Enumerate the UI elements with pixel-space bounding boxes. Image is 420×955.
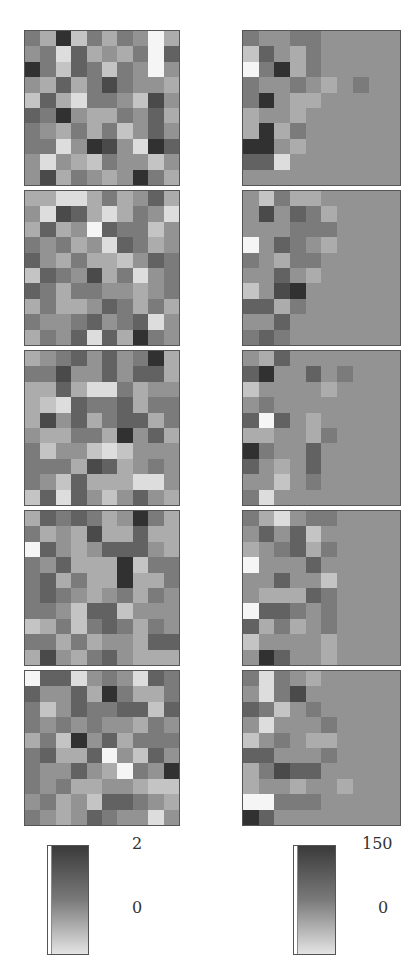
heatmap-cell — [133, 511, 148, 526]
heatmap-cell — [148, 330, 163, 345]
heatmap-cell — [71, 139, 86, 154]
heatmap-cell — [321, 763, 337, 778]
heatmap-cell — [56, 526, 71, 541]
heatmap-cell — [133, 46, 148, 61]
heatmap-cell — [353, 490, 369, 505]
heatmap-cell — [369, 634, 385, 649]
heatmap-cell — [274, 139, 290, 154]
heatmap-cell — [25, 671, 40, 686]
heatmap-cell — [321, 314, 337, 329]
heatmap-cell — [148, 542, 163, 557]
heatmap-cell — [56, 283, 71, 298]
heatmap-cell — [290, 686, 306, 701]
heatmap-cell — [274, 154, 290, 169]
heatmap-cell — [56, 299, 71, 314]
heatmap-cell — [259, 588, 275, 603]
heatmap-cell — [133, 474, 148, 489]
heatmap-cell — [117, 330, 132, 345]
heatmap-cell — [290, 299, 306, 314]
heatmap-cell — [25, 733, 40, 748]
heatmap-cell — [102, 650, 117, 665]
heatmap-cell — [353, 330, 369, 345]
heatmap-cell — [274, 283, 290, 298]
heatmap-cell — [384, 526, 400, 541]
heatmap-cell — [25, 268, 40, 283]
heatmap-cell — [133, 686, 148, 701]
heatmap-cell — [148, 366, 163, 381]
heatmap-cell — [117, 810, 132, 825]
heatmap-cell — [87, 748, 102, 763]
heatmap-cell — [87, 810, 102, 825]
heatmap-cell — [274, 542, 290, 557]
heatmap-cell — [384, 108, 400, 123]
heatmap-cell — [40, 619, 55, 634]
heatmap-cell — [321, 511, 337, 526]
heatmap-cell — [243, 170, 259, 185]
heatmap-cell — [25, 573, 40, 588]
heatmap-cell — [369, 31, 385, 46]
heatmap-cell — [369, 237, 385, 252]
heatmap-cell — [290, 557, 306, 572]
heatmap-cell — [243, 779, 259, 794]
heatmap-cell — [148, 170, 163, 185]
heatmap-cell — [274, 397, 290, 412]
heatmap-cell — [369, 299, 385, 314]
heatmap-cell — [353, 222, 369, 237]
heatmap-cell — [133, 588, 148, 603]
heatmap-cell — [243, 588, 259, 603]
heatmap-cell — [353, 810, 369, 825]
heatmap-cell — [259, 794, 275, 809]
heatmap-cell — [56, 237, 71, 252]
heatmap-cell — [321, 222, 337, 237]
heatmap-cell — [369, 779, 385, 794]
heatmap-cell — [25, 170, 40, 185]
heatmap-cell — [117, 763, 132, 778]
heatmap-cell — [369, 428, 385, 443]
heatmap-cell — [384, 283, 400, 298]
colorbar-edge — [48, 846, 52, 954]
heatmap-cell — [321, 717, 337, 732]
heatmap-cell — [71, 268, 86, 283]
heatmap-cell — [337, 108, 353, 123]
heatmap-cell — [164, 650, 179, 665]
heatmap-cell — [148, 123, 163, 138]
heatmap-cell — [369, 794, 385, 809]
heatmap-cell — [102, 557, 117, 572]
heatmap-cell — [40, 46, 55, 61]
heatmap-cell — [40, 428, 55, 443]
heatmap-cell — [243, 108, 259, 123]
heatmap-cell — [87, 573, 102, 588]
heatmap-cell — [25, 154, 40, 169]
heatmap-cell — [321, 93, 337, 108]
heatmap-cell — [164, 603, 179, 618]
heatmap-cell — [40, 557, 55, 572]
heatmap-cell — [290, 222, 306, 237]
heatmap-cell — [56, 366, 71, 381]
heatmap-cell — [148, 46, 163, 61]
heatmap-cell — [274, 573, 290, 588]
heatmap-cell — [259, 31, 275, 46]
heatmap-cell — [133, 382, 148, 397]
heatmap-cell — [133, 283, 148, 298]
heatmap-cell — [56, 686, 71, 701]
heatmap-cell — [117, 93, 132, 108]
heatmap-cell — [321, 108, 337, 123]
heatmap-cell — [353, 314, 369, 329]
heatmap-cell — [40, 686, 55, 701]
heatmap-cell — [243, 733, 259, 748]
heatmap-cell — [56, 733, 71, 748]
heatmap-cell — [102, 810, 117, 825]
heatmap-cell — [40, 671, 55, 686]
heatmap-cell — [290, 366, 306, 381]
heatmap-cell — [259, 299, 275, 314]
heatmap-cell — [25, 443, 40, 458]
heatmap-cell — [384, 46, 400, 61]
heatmap-cell — [71, 191, 86, 206]
heatmap-cell — [87, 77, 102, 92]
heatmap-cell — [133, 268, 148, 283]
heatmap-cell — [117, 62, 132, 77]
heatmap-cell — [259, 650, 275, 665]
heatmap-cell — [56, 170, 71, 185]
heatmap-cell — [369, 268, 385, 283]
heatmap-cell — [306, 573, 322, 588]
